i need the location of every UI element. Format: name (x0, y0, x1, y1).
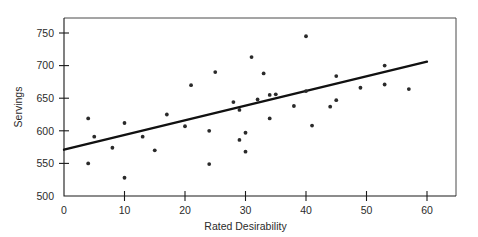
y-tick-label-600: 600 (36, 125, 54, 137)
x-tick-label-20: 20 (179, 204, 191, 216)
x-tick-label-50: 50 (361, 204, 373, 216)
y-tick-label-650: 650 (36, 92, 54, 104)
data-point (238, 108, 242, 112)
x-axis-title: Rated Desirability (204, 220, 287, 232)
data-point (262, 72, 266, 76)
data-point (123, 176, 127, 180)
data-points (86, 34, 410, 179)
data-point (244, 150, 248, 154)
data-point (334, 74, 338, 78)
data-point (86, 162, 90, 166)
data-point (334, 98, 338, 102)
x-tick-label-10: 10 (119, 204, 131, 216)
data-point (213, 70, 217, 74)
data-point (238, 138, 242, 142)
x-tick-label-0: 0 (61, 204, 67, 216)
plot-frame (64, 18, 456, 196)
data-point (328, 105, 332, 109)
x-tick-label-60: 60 (421, 204, 433, 216)
y-axis-title: Servings (12, 87, 24, 128)
data-point (310, 124, 314, 128)
data-point (383, 64, 387, 68)
data-point (244, 131, 248, 135)
data-point (304, 89, 308, 93)
data-point (165, 113, 169, 117)
data-point (268, 93, 272, 97)
axis-ticks (59, 33, 427, 201)
data-point (207, 162, 211, 166)
chart-canvas: 5005506006507007500102030405060Rated Des… (0, 0, 478, 237)
y-tick-label-550: 550 (36, 157, 54, 169)
data-point (183, 124, 187, 128)
data-point (292, 104, 296, 108)
data-point (256, 98, 260, 102)
data-point (123, 121, 127, 125)
trend-line (64, 62, 427, 150)
data-point (153, 148, 157, 152)
axis-labels: 5005506006507007500102030405060Rated Des… (12, 27, 433, 232)
x-tick-label-40: 40 (300, 204, 312, 216)
data-point (189, 83, 193, 87)
data-point (383, 83, 387, 87)
data-point (207, 129, 211, 133)
data-point (92, 135, 96, 139)
scatter-plot-figure: 5005506006507007500102030405060Rated Des… (0, 0, 478, 237)
y-tick-label-700: 700 (36, 59, 54, 71)
data-point (268, 117, 272, 121)
data-point (304, 34, 308, 38)
regression-line (64, 62, 427, 150)
data-point (407, 87, 411, 91)
data-point (250, 55, 254, 59)
data-point (359, 86, 363, 90)
y-tick-label-750: 750 (36, 27, 54, 39)
y-tick-label-500: 500 (36, 190, 54, 202)
data-point (86, 117, 90, 121)
plot-axis-left-bottom (64, 18, 456, 196)
data-point (232, 100, 236, 104)
data-point (274, 92, 278, 96)
data-point (141, 135, 145, 139)
plot-frame-top-right (64, 18, 456, 196)
x-tick-label-30: 30 (240, 204, 252, 216)
data-point (111, 146, 115, 150)
